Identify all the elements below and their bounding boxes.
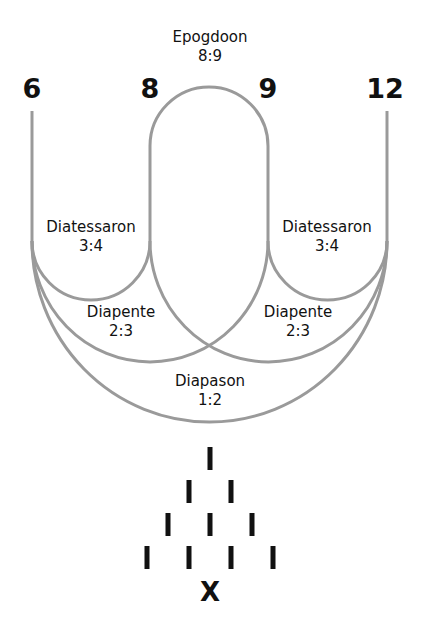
diatessaron-left-label: Diatessaron 3:4 — [46, 218, 135, 256]
diapente-left-name: Diapente — [87, 303, 155, 322]
diapente-right-name: Diapente — [264, 303, 332, 322]
diapente-right-ratio: 2:3 — [264, 322, 332, 341]
diatessaron-right-label: Diatessaron 3:4 — [282, 218, 371, 256]
diatessaron-right-ratio: 3:4 — [282, 237, 371, 256]
epogdoon-label: Epogdoon 8:9 — [172, 28, 247, 66]
tetractys-mark — [187, 546, 192, 569]
diapente-right-label: Diapente 2:3 — [264, 303, 332, 341]
epogdoon-name: Epogdoon — [172, 28, 247, 47]
diapason-label: Diapason 1:2 — [175, 372, 245, 410]
diatessaron-left-name: Diatessaron — [46, 218, 135, 237]
tetractys-mark — [229, 480, 234, 503]
tetractys-mark — [166, 513, 171, 536]
tetractys-mark — [208, 513, 213, 536]
tetractys-mark — [145, 546, 150, 569]
diapente-right-arc — [150, 241, 387, 362]
number-12: 12 — [366, 74, 404, 104]
diapason-ratio: 1:2 — [175, 391, 245, 410]
diatessaron-right-name: Diatessaron — [282, 218, 371, 237]
tetractys-mark — [271, 546, 276, 569]
diapason-name: Diapason — [175, 372, 245, 391]
diatessaron-left-ratio: 3:4 — [46, 237, 135, 256]
number-8: 8 — [141, 74, 160, 104]
tetractys-mark — [208, 447, 213, 470]
tetractys-mark — [250, 513, 255, 536]
number-6: 6 — [23, 74, 42, 104]
epogdoon-ratio: 8:9 — [172, 47, 247, 66]
diapente-left-label: Diapente 2:3 — [87, 303, 155, 341]
epogdoon-arc — [150, 87, 268, 241]
tetractys-mark — [229, 546, 234, 569]
number-9: 9 — [259, 74, 278, 104]
tetractys-mark — [187, 480, 192, 503]
interval-diagram — [0, 0, 426, 630]
tetractys-footer-x: X — [200, 579, 220, 605]
diapente-left-ratio: 2:3 — [87, 322, 155, 341]
